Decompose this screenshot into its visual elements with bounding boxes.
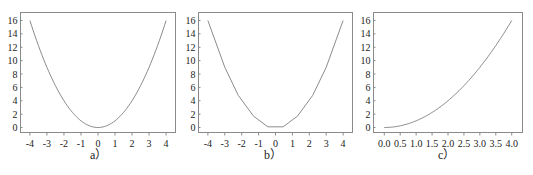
x-tick-label: 3.5 [490,138,503,149]
y-tick-label: 12 [361,42,371,53]
y-tick-label: 6 [366,82,371,93]
x-tick-label: 0 [273,138,278,149]
y-tick-label: 14 [361,28,371,39]
x-tick-label: 1.0 [410,138,423,149]
y-tick-label: 8 [366,69,371,80]
x-tick-label: 3 [147,138,152,149]
curve-c [384,21,511,128]
caption-c: c） [438,148,455,162]
x-tick-label: 1.5 [426,138,439,149]
y-tick-label: 10 [361,55,371,66]
y-tick-label: 16 [361,15,371,26]
y-tick-label: 10 [8,55,18,66]
x-tick-label: 2.0 [442,138,455,149]
y-tick-label: 2 [191,109,196,120]
figure: 0246810121416 -4-3-2-101234 a） 024681012… [0,0,533,175]
y-tick-label: 4 [13,95,18,106]
panel-a: 0246810121416 -4-3-2-101234 a） [8,13,176,163]
x-tick-label: 2 [307,138,312,149]
y-tick-label: 4 [191,95,196,106]
x-tick-label: 3 [324,138,329,149]
y-tick-label: 2 [366,109,371,120]
x-tick-label: -1 [254,138,262,149]
caption-a: a） [90,148,107,162]
y-tick-label: 4 [366,95,371,106]
y-tick-label: 14 [8,28,18,39]
y-tick-label: 0 [13,122,18,133]
plot-frame-c [374,13,523,133]
plot-frame-a [21,13,176,133]
y-tick-label: 8 [191,69,196,80]
y-tick-label: 8 [13,69,18,80]
curve-b [208,21,343,127]
x-tick-label: 0 [96,138,101,149]
x-tick-label: -2 [60,138,68,149]
y-tick-label: 12 [8,42,18,53]
panel-b: 0246810121416 -4-3-2-101234 b） [186,13,353,163]
y-tick-label: 0 [191,122,196,133]
y-tick-label: 6 [191,82,196,93]
x-tick-label: 1 [290,138,295,149]
plot-frame-b [199,13,353,133]
y-tick-label: 16 [8,15,18,26]
x-tick-label: -3 [43,138,51,149]
y-tick-label: 16 [186,15,196,26]
x-tick-label: 4.0 [505,138,518,149]
panel-c: 0246810121416 0.00.51.01.52.02.53.03.54.… [361,13,523,163]
x-tick-label: -2 [238,138,246,149]
x-tick-label: 4 [164,138,169,149]
x-tick-label: -4 [26,138,34,149]
y-tick-label: 12 [186,42,196,53]
curve-a [30,21,166,128]
y-tick-label: 14 [186,28,196,39]
x-ticks-a: -4-3-2-101234 [26,133,169,149]
x-tick-label: -1 [77,138,85,149]
x-tick-label: 0.0 [378,138,391,149]
x-tick-label: 1 [113,138,118,149]
x-tick-label: 4 [341,138,346,149]
x-ticks-b: -4-3-2-101234 [204,133,346,149]
x-tick-label: -3 [221,138,229,149]
caption-b: b） [264,148,282,162]
y-tick-label: 0 [366,122,371,133]
x-tick-label: 3.0 [474,138,487,149]
x-tick-label: 2.5 [458,138,471,149]
x-ticks-c: 0.00.51.01.52.02.53.03.54.0 [378,133,518,149]
y-tick-label: 2 [13,109,18,120]
y-tick-label: 10 [186,55,196,66]
x-tick-label: -4 [204,138,212,149]
y-tick-label: 6 [13,82,18,93]
x-tick-label: 0.5 [394,138,407,149]
x-tick-label: 2 [130,138,135,149]
